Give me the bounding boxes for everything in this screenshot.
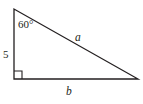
side-label-hypotenuse-a: a [75,32,81,44]
right-angle-marker-icon [14,71,22,79]
angle-label-60: 60° [18,19,33,30]
side-label-vertical-leg: 5 [3,49,9,60]
right-triangle-figure: 60° 5 a b [0,0,143,104]
side-label-horizontal-leg-b: b [66,86,72,98]
